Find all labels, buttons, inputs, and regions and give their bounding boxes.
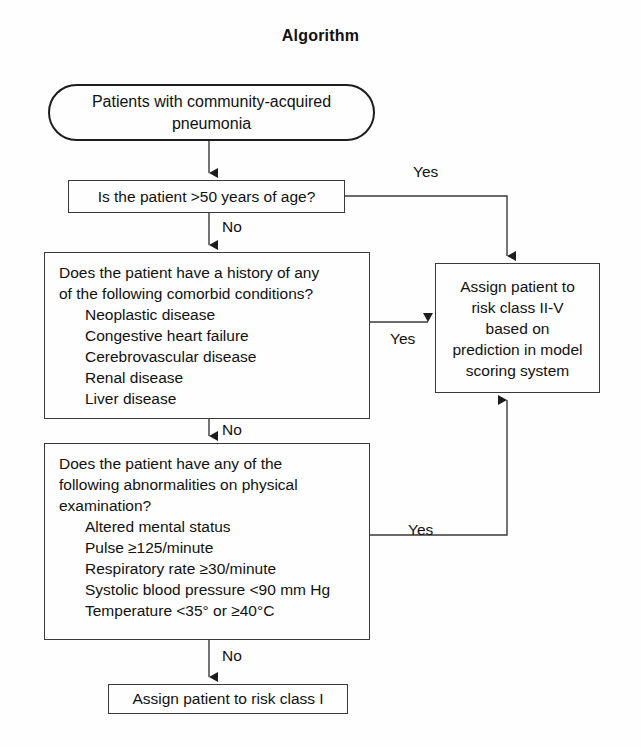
edge-label-yes-age: Yes — [413, 163, 438, 181]
node-decision-comorbid: Does the patient have a history of any o… — [44, 252, 370, 419]
list-item: Temperature <35° or ≥40°C — [85, 600, 369, 621]
edge-label-yes-comorbid: Yes — [390, 330, 415, 348]
physical-exam-abnormalities-list: Altered mental status Pulse ≥125/minute … — [59, 516, 369, 621]
list-item: Cerebrovascular disease — [85, 346, 369, 367]
edge-label-yes-exam: Yes — [408, 521, 433, 539]
node-outcome-risk-class-2-to-5-label: Assign patient to risk class II-V based … — [436, 276, 599, 381]
list-item: Congestive heart failure — [85, 325, 369, 346]
node-decision-age-label: Is the patient >50 years of age? — [69, 187, 344, 207]
node-start-patients: Patients with community-acquired pneumon… — [48, 84, 375, 141]
node-outcome-risk-class-1: Assign patient to risk class I — [108, 684, 348, 714]
edge-label-no-exam: No — [222, 647, 242, 665]
list-item: Neoplastic disease — [85, 304, 369, 325]
node-outcome-risk-class-1-label: Assign patient to risk class I — [109, 689, 347, 709]
list-item: Liver disease — [85, 388, 369, 409]
edge-label-no-age: No — [222, 218, 242, 236]
comorbid-conditions-list: Neoplastic disease Congestive heart fail… — [59, 304, 369, 409]
edge-label-no-comorbid: No — [222, 421, 242, 439]
node-decision-age: Is the patient >50 years of age? — [68, 180, 345, 213]
node-decision-physical-exam: Does the patient have any of the followi… — [44, 443, 370, 640]
list-item: Renal disease — [85, 367, 369, 388]
node-outcome-risk-class-2-to-5: Assign patient to risk class II-V based … — [435, 263, 600, 393]
list-item: Systolic blood pressure <90 mm Hg — [85, 579, 369, 600]
algorithm-flowchart: Algorithm — [0, 0, 641, 747]
list-item: Pulse ≥125/minute — [85, 537, 369, 558]
node-decision-comorbid-question: Does the patient have a history of any o… — [59, 262, 369, 304]
list-item: Respiratory rate ≥30/minute — [85, 558, 369, 579]
node-decision-physical-exam-question: Does the patient have any of the followi… — [59, 453, 369, 516]
node-start-label: Patients with community-acquired pneumon… — [50, 91, 373, 135]
list-item: Altered mental status — [85, 516, 369, 537]
